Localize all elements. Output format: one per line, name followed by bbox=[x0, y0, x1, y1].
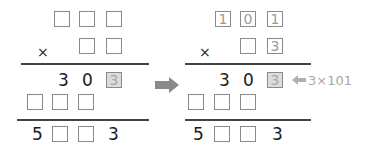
multiplicand-box-1 bbox=[54, 11, 70, 27]
rule-2 bbox=[17, 119, 149, 121]
multiplier-box-1 bbox=[79, 38, 95, 54]
result-box-2 bbox=[52, 126, 68, 142]
multiplicand-box-3 bbox=[106, 11, 122, 27]
partial2-box-1 bbox=[188, 94, 204, 110]
multiply-sign: × bbox=[199, 45, 211, 59]
multiplicand-box-3: 1 bbox=[267, 11, 283, 27]
partial1-digit-1: 3 bbox=[219, 72, 230, 89]
partial1-digit-2: 0 bbox=[243, 72, 254, 89]
partial1-digit-1: 3 bbox=[58, 72, 69, 89]
multiplicand-box-1: 1 bbox=[215, 11, 231, 27]
right-arrow-icon bbox=[155, 77, 179, 93]
right-puzzle: 1 0 1 × 3 3 0 3 3×101 5 3 bbox=[185, 0, 369, 154]
partial2-box-2 bbox=[52, 94, 68, 110]
result-digit-1: 5 bbox=[193, 126, 204, 143]
rule-1 bbox=[21, 63, 149, 65]
result-digit-4: 3 bbox=[108, 126, 119, 143]
partial2-box-1 bbox=[27, 94, 43, 110]
rule-2 bbox=[185, 119, 311, 121]
partial1-digit-2: 0 bbox=[82, 72, 93, 89]
rule-1 bbox=[185, 63, 311, 65]
partial2-box-3 bbox=[240, 94, 256, 110]
partial1-shaded-box: 3 bbox=[267, 72, 283, 88]
multiplier-box-1 bbox=[240, 38, 256, 54]
multiplier-box-2 bbox=[106, 38, 122, 54]
result-box-3 bbox=[240, 126, 256, 142]
annotation-3x101: 3×101 bbox=[308, 74, 352, 87]
result-digit-1: 5 bbox=[32, 126, 43, 143]
result-digit-4: 3 bbox=[272, 126, 283, 143]
partial1-shaded-box: 3 bbox=[106, 72, 122, 88]
left-arrow-icon bbox=[292, 75, 306, 85]
multiplicand-box-2: 0 bbox=[240, 11, 256, 27]
multiplier-box-2: 3 bbox=[267, 38, 283, 54]
result-box-3 bbox=[78, 126, 94, 142]
multiply-sign: × bbox=[37, 45, 49, 59]
result-box-2 bbox=[214, 126, 230, 142]
partial2-box-3 bbox=[78, 94, 94, 110]
multiplicand-box-2 bbox=[79, 11, 95, 27]
partial2-box-2 bbox=[214, 94, 230, 110]
